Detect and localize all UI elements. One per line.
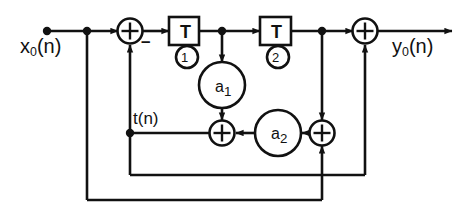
label-input-sub: 0	[30, 45, 37, 59]
label-coefficient-a1: a1	[215, 79, 231, 99]
diagram-canvas	[0, 0, 472, 217]
label-output-sub: 0	[402, 45, 409, 59]
label-a1-sub: 1	[224, 84, 231, 99]
node-t-junction	[126, 129, 134, 137]
label-a2-base: a	[271, 125, 280, 142]
node-delay1-out-tap	[218, 27, 226, 35]
label-delay-2-index: 2	[272, 51, 279, 64]
label-input-arg: (n)	[37, 35, 61, 57]
label-input-x0: x0(n)	[20, 36, 61, 56]
label-output-arg: (n)	[409, 35, 433, 57]
signal-flow-diagram: x0(n) y0(n) t(n) – a1 a2 T T 1 2	[0, 0, 472, 217]
label-coefficient-a2: a2	[271, 126, 287, 146]
node-input-tap	[83, 27, 91, 35]
label-output-y0: y0(n)	[392, 36, 433, 56]
label-delay-1-symbol: T	[180, 23, 191, 41]
node-input-source	[43, 27, 51, 35]
node-delay2-out-tap	[318, 27, 326, 35]
label-delay-1-index: 1	[181, 51, 188, 64]
label-delay-2-symbol: T	[271, 23, 282, 41]
label-minus-sign: –	[141, 33, 150, 50]
label-intermediate-tn: t(n)	[133, 110, 159, 127]
label-output-base: y	[392, 35, 402, 57]
label-a2-sub: 2	[280, 131, 287, 146]
label-input-base: x	[20, 35, 30, 57]
label-a1-base: a	[215, 78, 224, 95]
